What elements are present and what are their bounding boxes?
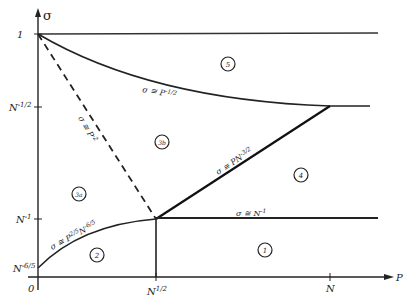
y-tick-1: 1 (17, 29, 23, 40)
x-tick-n: N (325, 283, 336, 294)
y-tick-n-minus-half: N-1/2 (8, 101, 32, 113)
sigma-one-line (38, 33, 378, 34)
svg-text:5: 5 (226, 61, 231, 69)
label-p-minus-two: σ ≅ P-2 (76, 114, 100, 145)
svg-text:4: 4 (298, 172, 303, 180)
x-axis-arrow-icon (384, 274, 394, 280)
phase-diagram: σ P 0 1 N-1/2 N-1 N-6/5 N1/2 N σ ≅ P-1/2… (0, 0, 404, 302)
svg-text:2: 2 (94, 252, 100, 260)
label-n-minus-one: σ ≅ N-1 (236, 207, 266, 218)
curve-p-minus-two (38, 34, 156, 219)
y-tick-n-minus-one: N-1 (15, 213, 32, 225)
svg-text:3a: 3a (75, 191, 83, 198)
y-axis-label: σ (43, 8, 52, 23)
x-tick-n-half: N1/2 (146, 285, 168, 297)
region-5: 5 (221, 57, 235, 71)
curve-pn-minus-three-half (156, 106, 330, 219)
y-axis-arrow-icon (35, 8, 41, 17)
region-4: 4 (294, 168, 308, 182)
label-p-two-fifths: σ ≅ P2/5N-6/5 (48, 218, 99, 252)
label-pn-minus-three-half: σ ≅ PN-3/2 (213, 145, 254, 177)
region-2: 2 (90, 248, 104, 262)
region-3b: 3b (155, 135, 169, 149)
origin-label: 0 (28, 283, 35, 294)
x-axis-label: P (395, 272, 403, 283)
region-1: 1 (258, 243, 272, 257)
y-tick-n-minus-six-fifths: N-6/5 (12, 262, 36, 274)
svg-text:1: 1 (263, 247, 267, 255)
region-3a: 3a (72, 187, 86, 201)
svg-text:3b: 3b (158, 139, 166, 146)
curve-p-minus-half (38, 34, 370, 106)
